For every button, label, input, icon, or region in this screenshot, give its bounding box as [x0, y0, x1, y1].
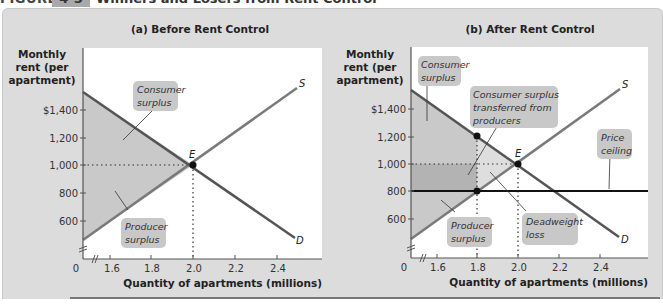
svg-text:2.0: 2.0: [511, 262, 527, 273]
svg-text:$1,400: $1,400: [371, 104, 406, 115]
svg-text:producers: producers: [472, 115, 521, 126]
panel-b-y-axis-label: Monthly rent (per apartment): [336, 48, 403, 86]
panel-b-x-axis-label: Quantity of apartments (millions): [449, 276, 648, 288]
panel-a-y-axis-label: Monthly rent (per apartment): [8, 48, 75, 86]
svg-text:$1,400: $1,400: [43, 105, 78, 116]
panel-b-label-e: E: [515, 148, 522, 159]
svg-text:surplus: surplus: [137, 97, 172, 108]
svg-text:1,000: 1,000: [377, 159, 406, 170]
svg-text:800: 800: [59, 188, 78, 199]
panel-a-label-s: S: [299, 78, 306, 89]
svg-text:1.6: 1.6: [430, 262, 446, 273]
svg-text:rent (per: rent (per: [15, 61, 69, 73]
panel-b-transferred-area: [411, 164, 477, 191]
svg-text:0: 0: [73, 263, 79, 274]
svg-text:surplus: surplus: [451, 233, 486, 244]
svg-text:Consumer: Consumer: [421, 59, 471, 70]
svg-text:Consumer: Consumer: [137, 84, 187, 95]
panel-a-x-tick-labels: 0 1.6 1.8 2.0 2.2 2.4: [73, 263, 286, 274]
svg-text:600: 600: [387, 214, 406, 225]
svg-text:1.6: 1.6: [104, 263, 120, 274]
panel-b-demand-at-ceiling-point: [474, 133, 481, 140]
panel-a-x-axis-label: Quantity of apartments (millions): [123, 277, 322, 289]
panel-b: (b) After Rent Control Monthly rent (per…: [336, 23, 648, 288]
svg-text:apartment): apartment): [336, 74, 403, 86]
svg-text:2.0: 2.0: [186, 263, 202, 274]
panel-b-title: (b) After Rent Control: [465, 23, 594, 35]
svg-text:Price: Price: [601, 132, 624, 143]
svg-text:2.2: 2.2: [552, 262, 568, 273]
panel-b-supply-at-ceiling-point: [474, 188, 481, 195]
svg-text:Producer: Producer: [451, 220, 495, 231]
svg-text:1,200: 1,200: [377, 132, 406, 143]
svg-text:rent (per: rent (per: [343, 61, 397, 73]
svg-text:Deadweight: Deadweight: [526, 216, 584, 227]
svg-text:600: 600: [59, 216, 78, 227]
svg-text:surplus: surplus: [421, 72, 456, 83]
panel-b-equilibrium-point: [515, 161, 522, 168]
panel-a-equilibrium-point: [190, 162, 197, 169]
svg-text:2.2: 2.2: [228, 263, 244, 274]
panel-b-x-tick-labels: 0 1.6 1.8 2.0 2.2 2.4: [401, 262, 609, 273]
panel-a-y-tick-labels: $1,400 1,200 1,000 800 600: [43, 105, 78, 227]
svg-text:1,200: 1,200: [49, 133, 78, 144]
svg-text:ceiling: ceiling: [601, 145, 632, 156]
panel-a-label-e: E: [189, 149, 196, 160]
svg-text:Monthly: Monthly: [346, 48, 394, 60]
svg-text:1.8: 1.8: [470, 262, 486, 273]
panel-a-title: (a) Before Rent Control: [131, 23, 269, 35]
svg-text:2.4: 2.4: [270, 263, 286, 274]
svg-text:surplus: surplus: [125, 234, 160, 245]
svg-text:1.8: 1.8: [144, 263, 160, 274]
svg-text:Monthly: Monthly: [18, 48, 66, 60]
svg-text:loss: loss: [526, 229, 544, 240]
panel-b-label-d: D: [621, 234, 629, 245]
svg-text:transferred from: transferred from: [473, 102, 552, 113]
svg-text:Consumer surplus: Consumer surplus: [473, 89, 559, 100]
svg-text:0: 0: [401, 262, 407, 273]
panel-a: (a) Before Rent Control Monthly rent (pe…: [8, 23, 322, 289]
svg-text:2.4: 2.4: [593, 262, 609, 273]
panel-b-label-s: S: [622, 79, 629, 90]
svg-text:Producer: Producer: [125, 221, 169, 232]
svg-text:apartment): apartment): [8, 74, 75, 86]
panel-b-y-tick-labels: $1,400 1,200 1,000 800 600: [371, 104, 406, 225]
svg-text:1,000: 1,000: [49, 160, 78, 171]
panel-a-label-d: D: [296, 235, 304, 246]
figure-charts: (a) Before Rent Control Monthly rent (pe…: [0, 0, 663, 306]
svg-text:800: 800: [387, 186, 406, 197]
